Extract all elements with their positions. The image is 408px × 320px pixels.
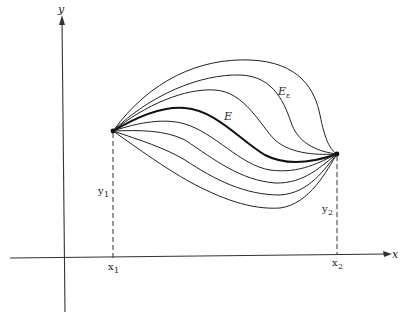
x1-label: x 1 <box>108 261 119 275</box>
varied-curve-label-main: E <box>277 85 286 98</box>
y-axis <box>62 20 65 312</box>
right-endpoint-dot <box>335 152 340 157</box>
variational-curves-diagram: x y E E ε y 1 <box>0 0 408 320</box>
x2-label: x 2 <box>332 257 343 271</box>
varied-curves-lower <box>113 121 337 208</box>
x1-label-sub: 1 <box>114 266 119 275</box>
extremal-curve-label: E <box>223 110 232 123</box>
y2-label-main: y <box>321 203 328 214</box>
curve-lower-2 <box>113 131 337 183</box>
varied-curve-label-sub: ε <box>286 91 290 100</box>
y1-label-sub: 1 <box>104 190 109 199</box>
varied-curve-label: E ε <box>277 85 290 100</box>
y-axis-label: y <box>57 3 65 16</box>
curve-lower-1 <box>113 121 337 171</box>
y1-label: y 1 <box>97 185 109 199</box>
x-axis-label: x <box>392 248 399 261</box>
varied-curves-upper <box>113 60 337 154</box>
y2-label-sub: 2 <box>328 208 333 217</box>
left-endpoint-dot <box>111 129 116 134</box>
curve-upper-1 <box>113 60 337 154</box>
x2-label-sub: 2 <box>338 262 343 271</box>
y-axis-arrowhead-icon <box>59 15 65 25</box>
x-axis-arrowhead-icon <box>383 251 392 257</box>
y1-label-main: y <box>97 185 104 196</box>
y2-label: y 2 <box>321 203 333 217</box>
